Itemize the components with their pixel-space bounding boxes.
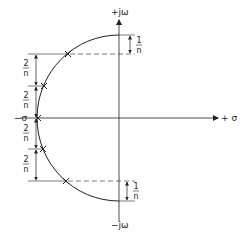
svg-text:n: n [23,101,28,110]
fraction-2-over-n: 2 n [23,91,29,110]
svg-text:1: 1 [133,182,138,191]
pole-markers [35,51,71,184]
svg-text:n: n [23,165,28,174]
right-fraction-labels: 1 n 1 n [133,36,142,201]
svg-text:n: n [136,46,141,55]
svg-text:2: 2 [23,59,28,68]
svg-text:2: 2 [23,155,28,164]
real-neg-label: −σ [14,113,28,123]
svg-text:2: 2 [23,91,28,100]
fraction-1-over-n-top: 1 n [136,36,142,55]
real-pos-label: + σ [221,113,237,123]
imag-pos-label: +jω [111,7,129,17]
svg-text:n: n [23,134,28,143]
dashed-reference-lines [68,54,135,181]
svg-text:2: 2 [23,124,28,133]
left-reference-lines [28,54,68,181]
fraction-2-over-n: 2 n [23,155,29,174]
svg-text:1: 1 [136,36,141,45]
imag-neg-label: −jω [111,220,129,230]
fraction-2-over-n: 2 n [23,59,29,78]
svg-text:n: n [133,192,138,201]
s-plane-diagram: +jω −jω + σ −σ 2 n 2 n 2 n 2 n 1 n [0,0,247,233]
fraction-2-over-n: 2 n [23,124,29,143]
svg-text:n: n [23,69,28,78]
fraction-1-over-n-bottom: 1 n [133,182,139,201]
